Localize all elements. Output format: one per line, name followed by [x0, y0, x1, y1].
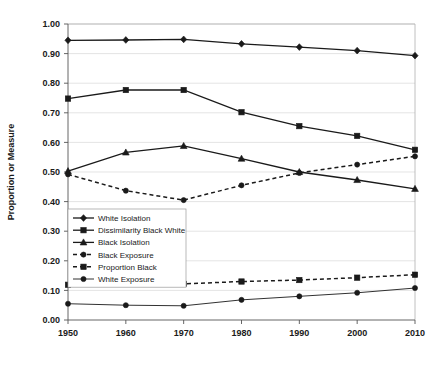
data-point-circle — [355, 290, 360, 295]
data-point-diamond — [238, 40, 244, 47]
y-tick-label: 0.00 — [42, 315, 60, 325]
data-point-square — [412, 147, 417, 152]
x-axis-ticks: 1950196019701980199020002010 — [58, 320, 425, 338]
data-point-circle — [239, 183, 244, 188]
legend-label: Dissimilarity Black White — [98, 226, 186, 235]
data-point-diamond — [181, 36, 187, 43]
data-point-square — [412, 272, 417, 277]
data-point-circle — [355, 162, 360, 167]
y-tick-label: 0.70 — [42, 108, 60, 118]
legend-label: White Exposure — [98, 275, 155, 284]
chart-figure: 0.000.100.200.300.400.500.600.700.800.90… — [0, 0, 439, 366]
x-tick-label: 1970 — [174, 328, 194, 338]
series-path — [68, 156, 415, 200]
data-point-square — [239, 110, 244, 115]
data-point-diamond — [123, 37, 129, 44]
series-white-isolation — [65, 36, 418, 59]
data-point-square — [81, 264, 86, 269]
x-tick-label: 1960 — [116, 328, 136, 338]
data-point-circle — [123, 188, 128, 193]
data-point-circle — [181, 198, 186, 203]
data-point-square — [354, 133, 359, 138]
y-tick-label: 0.30 — [42, 226, 60, 236]
y-tick-label: 0.40 — [42, 197, 60, 207]
x-tick-label: 1990 — [289, 328, 309, 338]
line-chart: 0.000.100.200.300.400.500.600.700.800.90… — [0, 0, 439, 366]
y-tick-label: 0.20 — [42, 256, 60, 266]
data-point-circle — [181, 303, 186, 308]
data-point-square — [239, 279, 244, 284]
data-point-circle — [297, 294, 302, 299]
data-point-circle — [123, 303, 128, 308]
data-point-circle — [81, 276, 86, 281]
y-axis-title: Proportion or Measure — [6, 124, 16, 221]
data-point-square — [354, 275, 359, 280]
series-white-exposure — [65, 285, 417, 308]
series-path — [68, 90, 415, 150]
data-point-circle — [239, 297, 244, 302]
x-tick-label: 1950 — [58, 328, 78, 338]
data-point-circle — [297, 170, 302, 175]
data-point-square — [123, 87, 128, 92]
x-tick-label: 1980 — [231, 328, 251, 338]
legend-label: White Isolation — [98, 214, 150, 223]
legend-label: Proportion Black — [98, 263, 158, 272]
y-axis-ticks: 0.000.100.200.300.400.500.600.700.800.90… — [42, 19, 68, 325]
x-tick-label: 2000 — [347, 328, 367, 338]
y-tick-label: 0.60 — [42, 138, 60, 148]
data-point-triangle — [180, 142, 187, 148]
data-point-diamond — [296, 44, 302, 51]
y-tick-label: 1.00 — [42, 19, 60, 29]
y-tick-label: 0.50 — [42, 167, 60, 177]
data-point-square — [81, 228, 86, 233]
chart-legend: White IsolationDissimilarity Black White… — [68, 209, 186, 287]
data-point-circle — [65, 172, 70, 177]
data-point-circle — [65, 301, 70, 306]
data-point-square — [65, 96, 70, 101]
series-path — [68, 146, 415, 189]
data-point-circle — [412, 285, 417, 290]
data-point-circle — [81, 252, 86, 257]
data-point-diamond — [354, 47, 360, 54]
data-point-diamond — [65, 37, 71, 44]
data-point-square — [181, 87, 186, 92]
x-tick-label: 2010 — [405, 328, 425, 338]
data-point-square — [297, 277, 302, 282]
data-point-square — [297, 123, 302, 128]
legend-label: Black Isolation — [98, 238, 150, 247]
legend-label: Black Exposure — [98, 251, 154, 260]
y-tick-label: 0.10 — [42, 286, 60, 296]
y-tick-label: 0.90 — [42, 49, 60, 59]
y-tick-label: 0.80 — [42, 78, 60, 88]
data-point-circle — [412, 154, 417, 159]
